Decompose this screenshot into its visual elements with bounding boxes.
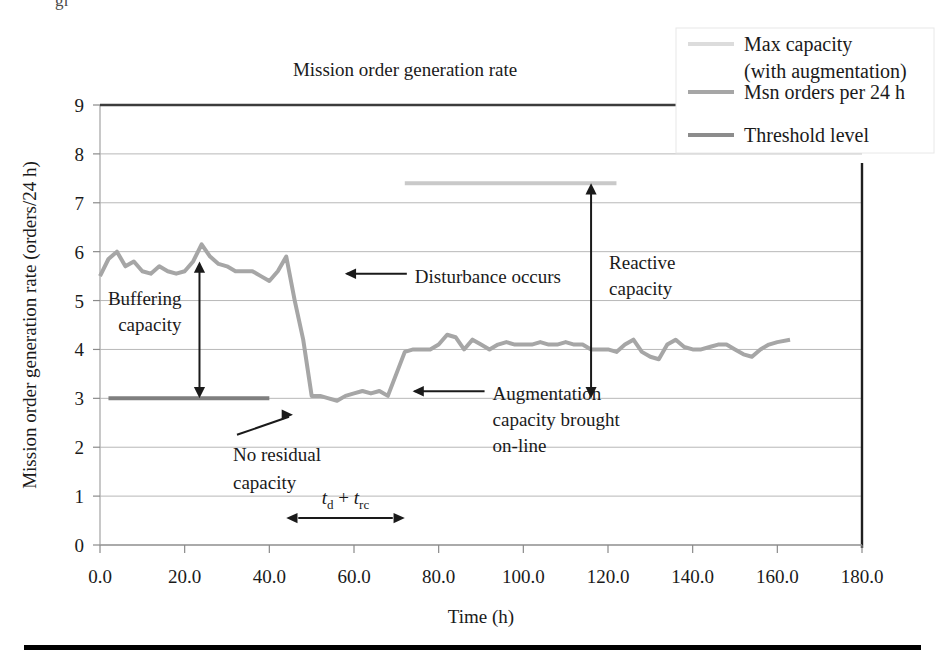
legend-label-2-line1: Threshold level (744, 124, 869, 146)
y-tick-label: 3 (75, 388, 85, 409)
x-tick-label: 120.0 (587, 566, 630, 587)
legend-label-1-line1: Msn orders per 24 h (744, 81, 905, 104)
annotation-layer: BufferingcapacityDisturbance occursNo re… (108, 183, 676, 523)
delay-time-label: td + trc (322, 487, 370, 512)
y-axis-title: Mission order generation rate (orders/24… (19, 161, 41, 489)
reactive-capacity-label-line1: Reactive (609, 252, 675, 273)
x-axis-title: Time (h) (448, 606, 514, 628)
titles-layer: Mission order generation rateTime (h)Mis… (19, 59, 517, 628)
y-tick-label: 1 (75, 486, 85, 507)
x-tick-label: 0.0 (88, 566, 112, 587)
legend-label-0-line1: Max capacity (744, 33, 852, 56)
x-tick-label: 180.0 (841, 566, 884, 587)
x-axis-ticks: 0.020.040.060.080.0100.0120.0140.0160.01… (88, 545, 883, 587)
y-tick-label: 0 (75, 535, 85, 556)
delay-time-arrowhead-right (394, 513, 405, 523)
no-residual-label-line2: capacity (233, 472, 297, 493)
y-tick-label: 2 (75, 437, 85, 458)
no-residual-arrowhead (282, 410, 293, 420)
x-tick-label: 160.0 (756, 566, 799, 587)
augmentation-label-line1: Augmentation (493, 383, 602, 404)
legend-label-0-line2: (with augmentation) (744, 60, 907, 83)
gridlines (100, 105, 862, 545)
augmentation-arrowhead (413, 386, 424, 396)
chart-legend: Max capacity(with augmentation)Msn order… (676, 28, 934, 153)
y-axis-ticks: 0123456789 (75, 95, 101, 556)
augmentation-label-line3: on-line (493, 435, 547, 456)
line-chart: 0123456789 0.020.040.060.080.0100.0120.0… (0, 0, 937, 666)
disturbance-arrowhead (345, 268, 356, 278)
reactive-capacity-label-line2: capacity (609, 278, 673, 299)
bottom-rule (24, 645, 921, 650)
y-tick-label: 8 (75, 144, 85, 165)
x-tick-label: 100.0 (502, 566, 545, 587)
buffering-capacity-label-line2: capacity (118, 314, 182, 335)
y-tick-label: 5 (75, 291, 85, 312)
augmentation-label-line2: capacity brought (493, 409, 621, 430)
y-tick-label: 4 (75, 339, 85, 360)
x-tick-label: 60.0 (337, 566, 370, 587)
y-tick-label: 7 (75, 193, 85, 214)
disturbance-occurs-label: Disturbance occurs (415, 266, 561, 287)
y-tick-label: 9 (75, 95, 85, 116)
no-residual-label-line1: No residual (233, 444, 321, 465)
delay-time-arrowhead-left (286, 513, 297, 523)
y-tick-label: 6 (75, 242, 85, 263)
buffering-capacity-arrowhead-up (194, 261, 205, 272)
x-tick-label: 20.0 (168, 566, 201, 587)
x-tick-label: 40.0 (253, 566, 286, 587)
plot-frame (100, 105, 862, 548)
chart-title: Mission order generation rate (293, 59, 517, 80)
data-series-layer (100, 183, 790, 401)
figure-canvas: gr 0123456789 0.020.040.060.080.0100.012… (0, 0, 937, 666)
x-tick-label: 140.0 (671, 566, 714, 587)
no-residual-arrow-shaft (237, 417, 289, 435)
buffering-capacity-label-line1: Buffering (108, 288, 182, 309)
x-tick-label: 80.0 (422, 566, 455, 587)
